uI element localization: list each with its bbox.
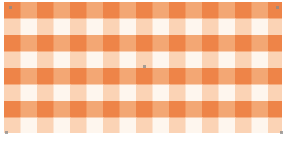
resize-handle-bottom-right[interactable] [280,131,283,134]
resize-handle-bottom-left[interactable] [5,131,8,134]
resize-handle-top-right[interactable] [276,6,279,9]
resize-handle-top-left[interactable] [9,6,12,9]
canvas [0,0,285,142]
center-handle[interactable] [143,65,146,68]
